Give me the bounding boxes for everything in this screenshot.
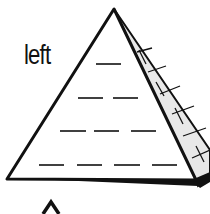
next-pyramid-apex [43, 202, 59, 214]
side-label: left [24, 40, 50, 71]
pyramid-graphic [0, 0, 210, 214]
